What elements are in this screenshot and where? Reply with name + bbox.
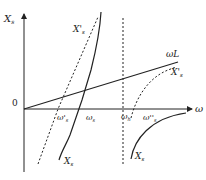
omega-h-marker: ωh (121, 112, 131, 122)
omega-l-label: ωL (166, 49, 179, 59)
omega-l-line (24, 62, 178, 109)
omega-s-prime-marker: ω's (57, 113, 69, 123)
y-axis-label: Xs (3, 13, 14, 25)
omega-s-double-prime-marker: ω''s (143, 113, 157, 123)
origin-label: 0 (12, 98, 18, 108)
xs-left-curve (59, 12, 101, 160)
xs-right-label: Xs (134, 151, 144, 162)
xs-prime-left-curve (38, 17, 98, 164)
reactance-frequency-diagram: Xs 0 ω X's ωL X's Xs Xs ω's ωs ωh ω''s (0, 0, 206, 180)
xs-left-label: Xs (63, 156, 73, 167)
xs-prime-left-label: X's (72, 24, 85, 35)
x-axis-label: ω (195, 103, 203, 114)
diagram-canvas: Xs 0 ω X's ωL X's Xs Xs ω's ωs ωh ω''s (0, 0, 206, 180)
omega-s-marker: ωs (86, 113, 96, 123)
xs-prime-right-label: X's (170, 67, 183, 78)
